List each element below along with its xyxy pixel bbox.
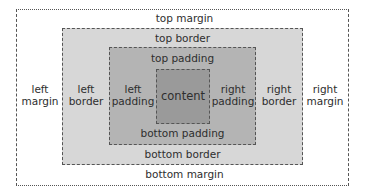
left-border-label: left border bbox=[63, 83, 109, 107]
bottom-border-label: bottom border bbox=[62, 148, 303, 160]
top-border-label: top border bbox=[62, 32, 303, 44]
left-border-line1: left bbox=[63, 83, 109, 95]
left-margin-line1: left bbox=[18, 83, 62, 95]
right-margin-line2: margin bbox=[303, 95, 347, 107]
bottom-margin-label: bottom margin bbox=[0, 168, 369, 180]
right-padding-line1: right bbox=[210, 83, 256, 95]
right-padding-label: right padding bbox=[210, 83, 256, 107]
right-padding-line2: padding bbox=[210, 95, 256, 107]
bottom-padding-label: bottom padding bbox=[109, 127, 256, 139]
top-padding-label: top padding bbox=[109, 52, 256, 64]
right-border-label: right border bbox=[256, 83, 302, 107]
left-padding-label: left padding bbox=[110, 83, 156, 107]
left-border-line2: border bbox=[63, 95, 109, 107]
left-margin-line2: margin bbox=[18, 95, 62, 107]
right-border-line1: right bbox=[256, 83, 302, 95]
content-label: content bbox=[156, 90, 210, 102]
top-margin-label: top margin bbox=[0, 12, 369, 24]
left-padding-line1: left bbox=[110, 83, 156, 95]
right-margin-label: right margin bbox=[303, 83, 347, 107]
left-padding-line2: padding bbox=[110, 95, 156, 107]
right-border-line2: border bbox=[256, 95, 302, 107]
right-margin-line1: right bbox=[303, 83, 347, 95]
left-margin-label: left margin bbox=[18, 83, 62, 107]
